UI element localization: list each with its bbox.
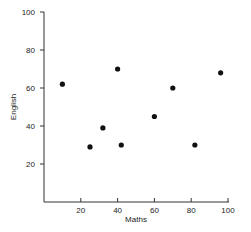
y-tick-label: 80: [26, 46, 35, 55]
data-points: [60, 66, 223, 149]
y-tick-label: 100: [22, 8, 36, 17]
x-tick-label: 60: [150, 206, 159, 215]
axes: [44, 12, 229, 202]
x-tick-label: 100: [221, 206, 235, 215]
data-point: [100, 125, 105, 130]
data-point: [192, 142, 197, 147]
data-point: [170, 85, 175, 90]
y-axis-title: English: [9, 94, 18, 120]
x-ticks: 20406080100: [76, 198, 235, 215]
data-point: [87, 144, 92, 149]
x-tick-label: 40: [113, 206, 122, 215]
data-point: [115, 66, 120, 71]
data-point: [152, 114, 157, 119]
scatter-chart: 20406080100 20406080100 Maths English: [0, 0, 251, 232]
data-point: [119, 142, 124, 147]
y-ticks: 20406080100: [22, 8, 44, 169]
x-tick-label: 20: [76, 206, 85, 215]
data-point: [60, 82, 65, 87]
y-tick-label: 20: [26, 160, 35, 169]
y-tick-label: 40: [26, 122, 35, 131]
x-tick-label: 80: [187, 206, 196, 215]
data-point: [218, 70, 223, 75]
x-axis-title: Maths: [125, 215, 147, 224]
y-tick-label: 60: [26, 84, 35, 93]
